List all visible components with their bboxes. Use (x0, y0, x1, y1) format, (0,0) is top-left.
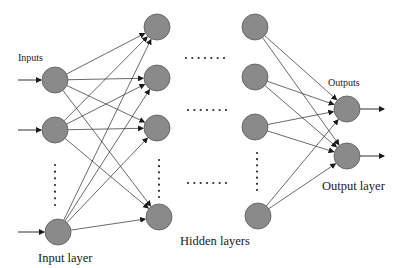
vertical-ellipsis-dot (256, 152, 258, 154)
vertical-ellipsis-dot (158, 196, 160, 198)
horizontal-ellipsis-dot (210, 57, 212, 59)
connection-edge (71, 219, 145, 230)
hidden1-node (144, 14, 170, 40)
input-node (42, 67, 68, 93)
vertical-ellipsis-dot (256, 189, 258, 191)
vertical-ellipsis-dot (256, 177, 258, 179)
vertical-ellipsis-dot (54, 197, 56, 199)
horizontal-ellipsis-dot (212, 182, 214, 184)
connection-edge (67, 84, 145, 124)
vertical-ellipsis-dot (54, 184, 56, 186)
output-node (334, 143, 360, 169)
connection-edge (266, 120, 338, 206)
vertical-ellipsis-dot (54, 191, 56, 193)
horizontal-ellipsis-dot (198, 57, 200, 59)
vertical-ellipsis-dot (158, 159, 160, 161)
horizontal-ellipsis-dot (219, 182, 221, 184)
connection-edge (67, 138, 147, 222)
connection-edge (65, 138, 148, 208)
connection-edge (265, 36, 337, 100)
horizontal-ellipsis-dot (206, 182, 208, 184)
vertical-ellipsis-dot (54, 177, 56, 179)
vertical-ellipsis-dot (256, 164, 258, 166)
horizontal-ellipsis-dot (187, 182, 189, 184)
horizontal-ellipsis-dot (212, 109, 214, 111)
vertical-ellipsis-dot (54, 164, 56, 166)
vertical-ellipsis-dot (158, 171, 160, 173)
hidden2-node (242, 114, 268, 140)
output-layer-label: Output layer (322, 179, 386, 193)
horizontal-ellipsis-dot (225, 109, 227, 111)
output-node (334, 96, 360, 122)
hidden-layers-label: Hidden layers (180, 234, 250, 248)
vertical-ellipsis-dot (158, 177, 160, 179)
input-layer-label: Input layer (38, 251, 93, 265)
connection-edge (64, 40, 151, 221)
connection-edge (67, 86, 145, 123)
horizontal-ellipsis-dot (204, 57, 206, 59)
connection-edges (63, 33, 339, 230)
horizontal-ellipsis-dot (225, 182, 227, 184)
input-node (42, 117, 68, 143)
connection-edge (67, 33, 145, 74)
vertical-ellipsis-dot (54, 171, 56, 173)
horizontal-ellipsis-dot (187, 109, 189, 111)
horizontal-ellipsis-dot (193, 182, 195, 184)
connection-edge (267, 81, 333, 104)
hidden2-node (242, 64, 268, 90)
connection-edge (64, 37, 147, 121)
hidden1-node (144, 115, 170, 141)
vertical-ellipsis-dot (256, 170, 258, 172)
horizontal-ellipsis-dot (191, 57, 193, 59)
horizontal-ellipsis-dot (206, 109, 208, 111)
neural-network-diagram: Inputs Outputs Input layer Hidden layers… (0, 0, 396, 268)
input-node (45, 219, 71, 245)
hidden1-node (144, 65, 170, 91)
vertical-ellipsis-dot (54, 204, 56, 206)
vertical-ellipsis-dot (256, 158, 258, 160)
connection-edge (265, 85, 337, 146)
hidden2-node (242, 14, 268, 40)
horizontal-ellipsis-dot (223, 57, 225, 59)
horizontal-ellipsis-dot (185, 57, 187, 59)
inputs-label: Inputs (18, 52, 43, 63)
horizontal-ellipsis-dot (219, 109, 221, 111)
vertical-ellipsis-dot (158, 190, 160, 192)
vertical-ellipsis-dot (158, 165, 160, 167)
vertical-ellipsis-dot (158, 184, 160, 186)
vertical-ellipsis-dot (256, 183, 258, 185)
horizontal-ellipsis-dot (193, 109, 195, 111)
outputs-label: Outputs (328, 77, 360, 88)
horizontal-ellipsis-dot (217, 57, 219, 59)
hidden2-node (245, 203, 271, 229)
hidden1-node (146, 204, 172, 230)
horizontal-ellipsis-dot (200, 182, 202, 184)
connection-edge (267, 131, 333, 152)
horizontal-ellipsis-dot (200, 109, 202, 111)
connection-edge (68, 128, 143, 129)
